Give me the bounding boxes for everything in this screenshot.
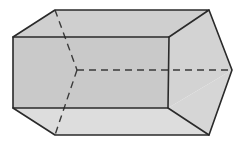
pentagonal-prism-diagram: [0, 0, 237, 146]
front-face: [13, 37, 169, 108]
